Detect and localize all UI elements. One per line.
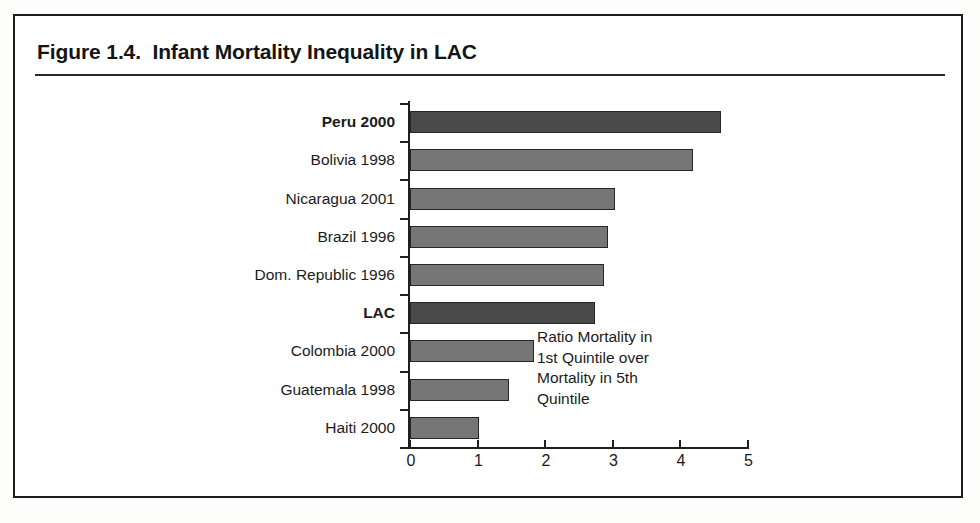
category-label: LAC — [95, 305, 395, 321]
category-label: Nicaragua 2001 — [95, 191, 395, 207]
bar — [410, 188, 615, 210]
y-axis-tick — [400, 332, 408, 334]
y-axis-tick — [400, 103, 408, 105]
x-axis-tick-label: 4 — [666, 452, 696, 470]
y-axis-line — [408, 101, 410, 449]
bar — [410, 302, 595, 324]
y-axis-tick — [400, 409, 408, 411]
category-label: Peru 2000 — [95, 114, 395, 130]
x-axis-tick-label: 2 — [531, 452, 561, 470]
y-axis-tick — [400, 294, 408, 296]
bar — [410, 417, 479, 439]
figure-page: Figure 1.4. Infant Mortality Inequality … — [0, 0, 980, 523]
x-axis-tick-label: 5 — [734, 452, 764, 470]
bar — [410, 264, 604, 286]
category-label: Bolivia 1998 — [95, 152, 395, 168]
x-axis-tick-label: 1 — [464, 452, 494, 470]
x-axis-tick-label: 3 — [599, 452, 629, 470]
category-label: Dom. Republic 1996 — [95, 267, 395, 283]
y-axis-tick — [400, 218, 408, 220]
bar-chart: Peru 2000Bolivia 1998Nicaragua 2001Brazi… — [0, 0, 980, 523]
category-label: Haiti 2000 — [95, 420, 395, 436]
y-axis-tick — [400, 447, 408, 449]
chart-annotation: Ratio Mortality in 1st Quintile over Mor… — [537, 327, 652, 409]
category-label: Brazil 1996 — [95, 229, 395, 245]
bar — [410, 226, 608, 248]
category-label: Colombia 2000 — [95, 343, 395, 359]
bar — [410, 379, 509, 401]
bar — [410, 149, 693, 171]
y-axis-tick — [400, 179, 408, 181]
bar — [410, 340, 534, 362]
y-axis-tick — [400, 141, 408, 143]
x-axis-line — [408, 447, 749, 449]
category-label: Guatemala 1998 — [95, 382, 395, 398]
x-axis-tick-label: 0 — [396, 452, 426, 470]
y-axis-tick — [400, 256, 408, 258]
y-axis-tick — [400, 371, 408, 373]
bar — [410, 111, 721, 133]
